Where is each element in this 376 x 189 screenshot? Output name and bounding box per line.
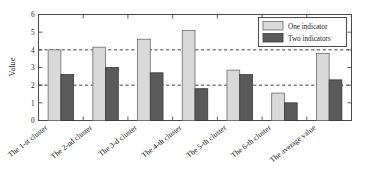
- bar-one-indicator-4: [227, 70, 240, 120]
- bar-two-indicators-4: [240, 75, 253, 121]
- bar-two-indicators-1: [106, 68, 119, 121]
- bar-two-indicators-0: [61, 75, 74, 121]
- legend-swatch-two-indicators: [263, 34, 283, 43]
- y-tick-label: 1: [31, 100, 35, 108]
- legend: One indicator Two indicators: [259, 18, 347, 47]
- bar-two-indicators-5: [284, 103, 297, 121]
- chart-canvas: 0123456 The 1-st clusterThe 2-nd cluster…: [0, 0, 376, 189]
- bar-one-indicator-0: [48, 50, 61, 121]
- y-axis-label: Value: [8, 57, 17, 76]
- y-tick-label: 6: [31, 11, 35, 19]
- bar-two-indicators-3: [195, 89, 208, 121]
- bar-two-indicators-6: [329, 80, 342, 121]
- legend-label-one-indicator: One indicator: [288, 23, 328, 31]
- category-labels: The 1-st clusterThe 2-nd clusterThe 3-d …: [6, 123, 318, 165]
- bar-chart: 0123456 The 1-st clusterThe 2-nd cluster…: [0, 0, 376, 189]
- y-tick-label: 5: [31, 29, 35, 37]
- category-label-5: The 6-th cluster: [229, 123, 273, 160]
- category-label-2: The 3-d cluster: [97, 123, 139, 159]
- bar-one-indicator-1: [93, 47, 106, 120]
- y-tick-label: 3: [31, 64, 35, 72]
- y-tick-label: 4: [31, 47, 35, 55]
- category-label-6: The average value: [268, 123, 318, 165]
- y-tick-label: 0: [31, 117, 35, 125]
- category-label-1: The 2-nd cluster: [49, 123, 94, 161]
- legend-swatch-one-indicator: [263, 22, 283, 31]
- bar-one-indicator-5: [272, 93, 285, 120]
- bar-one-indicator-3: [182, 30, 195, 120]
- y-tick-label: 2: [31, 82, 35, 90]
- category-label-0: The 1-st cluster: [6, 123, 49, 159]
- bar-one-indicator-6: [316, 53, 329, 120]
- legend-label-two-indicators: Two indicators: [288, 35, 331, 43]
- bar-two-indicators-2: [150, 73, 163, 121]
- category-label-3: The 4-th cluster: [140, 123, 184, 160]
- bar-one-indicator-2: [138, 39, 151, 120]
- category-label-4: The 5-th cluster: [185, 123, 229, 160]
